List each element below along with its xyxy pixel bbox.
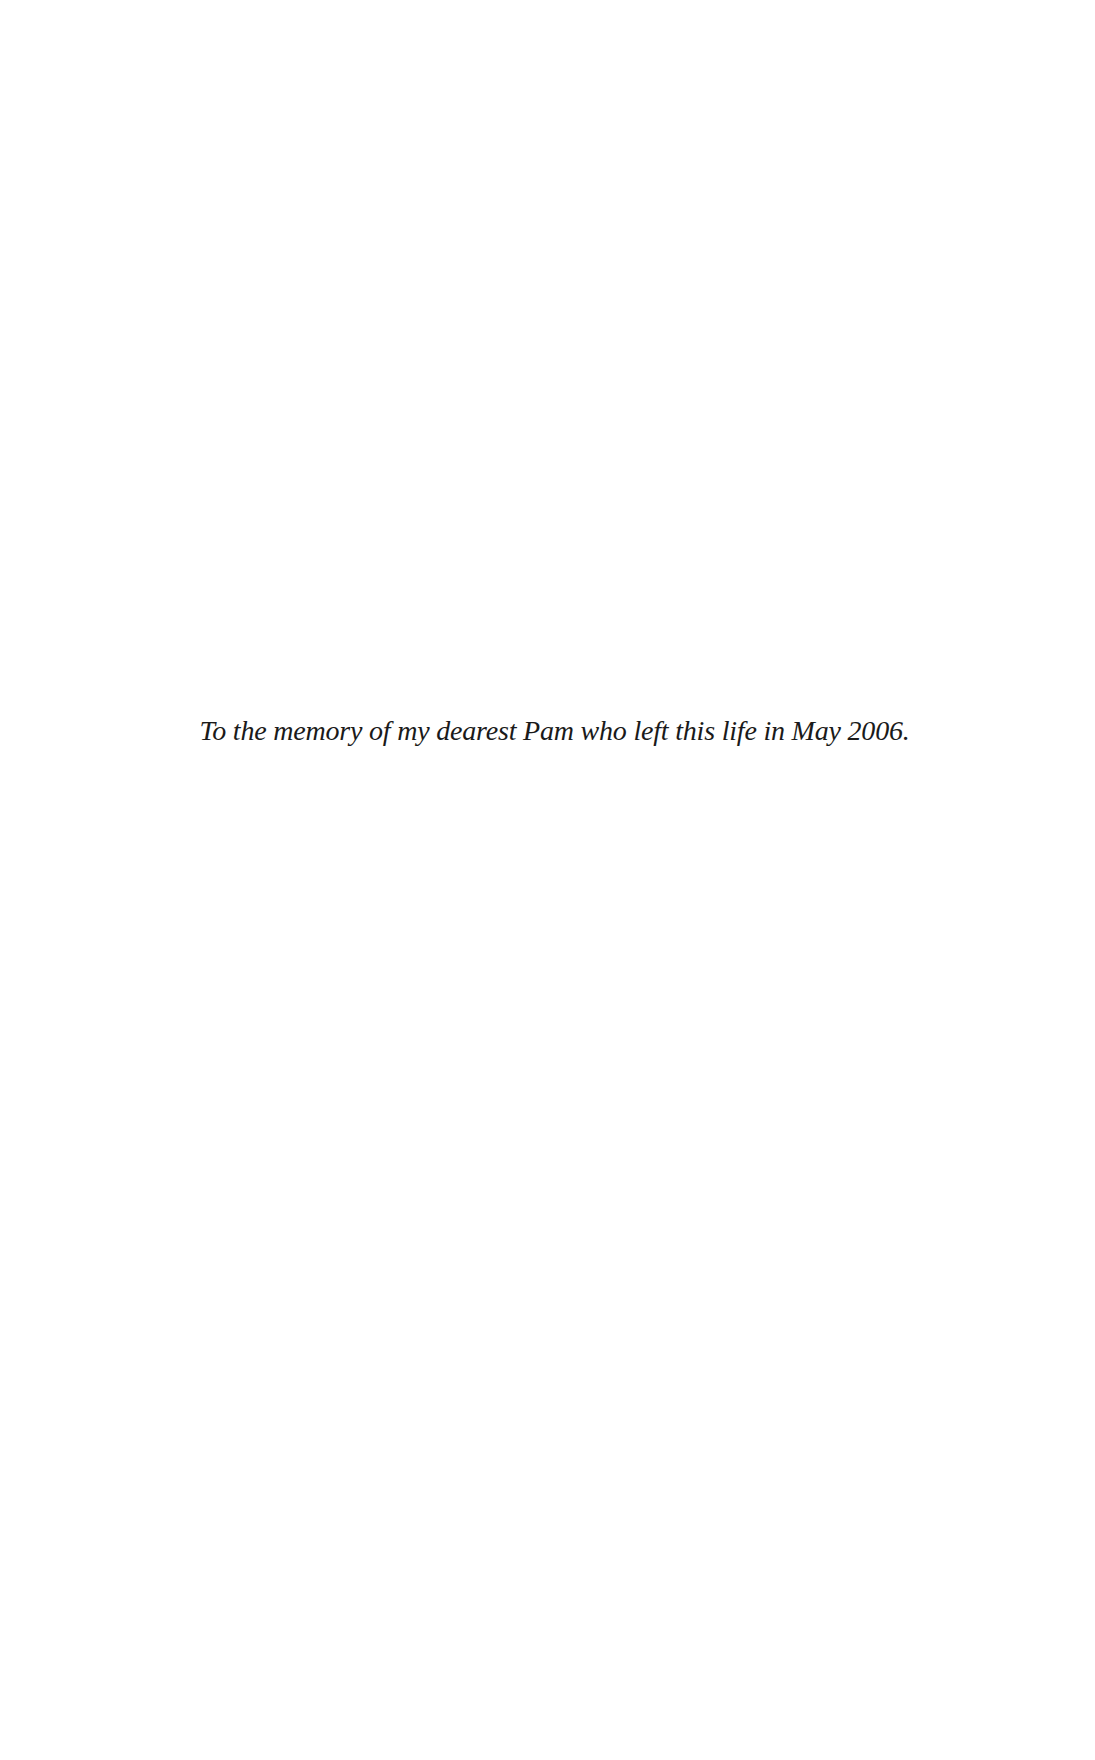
book-page: To the memory of my dearest Pam who left… bbox=[0, 0, 1095, 1760]
dedication-text: To the memory of my dearest Pam who left… bbox=[0, 714, 1095, 748]
